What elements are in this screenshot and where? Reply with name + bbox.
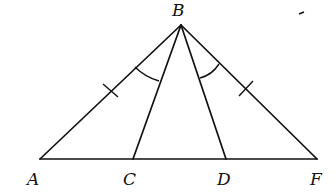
segment-bc — [133, 25, 181, 159]
angle-arc-dbf — [200, 64, 219, 78]
label-b: B — [171, 0, 185, 20]
stray-mark — [299, 12, 304, 14]
label-a: A — [25, 169, 39, 189]
label-f: F — [309, 169, 323, 189]
label-d: D — [216, 169, 231, 189]
segment-bf — [181, 25, 317, 159]
segment-ab — [40, 25, 181, 159]
segment-bd — [181, 25, 226, 159]
triangle-diagram: B A C D F — [0, 0, 335, 196]
label-c: C — [123, 169, 136, 189]
angle-arc-abc — [135, 67, 159, 81]
